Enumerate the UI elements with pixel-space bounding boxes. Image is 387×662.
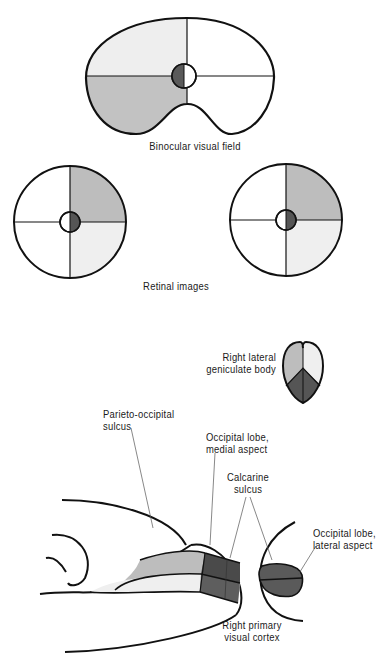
binocular-field-figure <box>80 10 274 146</box>
lateral-geniculate-body <box>280 340 328 410</box>
label-parieto-occipital-sulcus: Parieto-occipital sulcus <box>103 408 177 432</box>
upper-left-quadrant <box>80 10 187 76</box>
label-line: Occipital lobe, <box>313 527 379 539</box>
label-line: sulcus <box>103 420 177 432</box>
visual-pathway-diagram: Binocular visual field Retinal images Ri… <box>0 0 387 662</box>
upper-right-quadrant <box>70 160 130 222</box>
label-primary-visual-cortex: Right primary visual cortex <box>219 619 285 643</box>
retinal-image-right <box>230 158 346 282</box>
upper-right-quadrant <box>286 158 346 220</box>
label-line: Right lateral <box>202 351 276 363</box>
label-line: medial aspect <box>206 443 280 455</box>
label-line: Occipital lobe, <box>206 431 280 443</box>
label-line: Calcarine <box>223 471 272 483</box>
label-line: Parieto-occipital <box>103 408 177 420</box>
label-line: geniculate body <box>202 363 276 375</box>
lower-right-quadrant <box>70 222 130 284</box>
label-binocular-visual-field: Binocular visual field <box>142 140 249 152</box>
label-line: sulcus <box>223 483 272 495</box>
lower-right-quadrant <box>286 220 346 282</box>
label-retinal-images: Retinal images <box>139 280 213 292</box>
label-calcarine-sulcus: Calcarine sulcus <box>223 471 272 495</box>
label-line: Right primary <box>219 619 285 631</box>
occipital-lateral-figure <box>259 522 303 621</box>
label-lateral-geniculate-body: Right lateral geniculate body <box>202 351 276 375</box>
label-line: visual cortex <box>219 631 285 643</box>
label-occipital-lobe-lateral: Occipital lobe, lateral aspect <box>313 527 379 551</box>
label-line: lateral aspect <box>313 539 379 551</box>
retinal-image-left <box>14 160 130 284</box>
label-occipital-lobe-medial: Occipital lobe, medial aspect <box>206 431 280 455</box>
